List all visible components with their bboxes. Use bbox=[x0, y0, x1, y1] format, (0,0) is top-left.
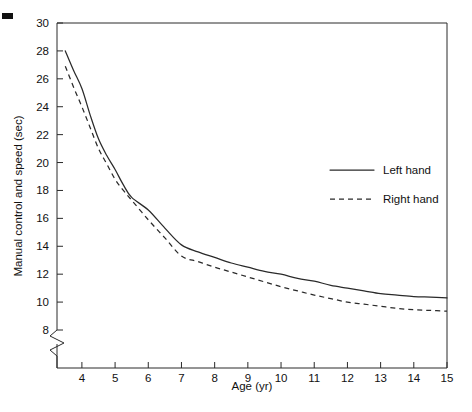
y-tick-label: 30 bbox=[36, 17, 49, 29]
y-tick-label: 26 bbox=[36, 73, 49, 85]
x-tick-label: 4 bbox=[79, 372, 86, 384]
y-tick-label: 12 bbox=[36, 268, 49, 280]
legend-label-right-hand: Right hand bbox=[383, 193, 439, 205]
line-chart: 81012141618202224262830 4567891011121314… bbox=[0, 0, 472, 412]
y-axis-ticks: 81012141618202224262830 bbox=[36, 17, 63, 336]
series-right-hand-line bbox=[65, 66, 447, 311]
x-tick-label: 15 bbox=[441, 372, 454, 384]
x-tick-label: 7 bbox=[178, 372, 184, 384]
y-tick-label: 18 bbox=[36, 184, 49, 196]
y-tick-label: 8 bbox=[43, 324, 49, 336]
data-series-group bbox=[65, 51, 447, 311]
y-axis-title: Manual control and speed (sec) bbox=[12, 115, 24, 276]
x-tick-label: 5 bbox=[112, 372, 118, 384]
x-tick-label: 14 bbox=[407, 372, 420, 384]
legend-label-left-hand: Left hand bbox=[383, 164, 431, 176]
y-tick-label: 16 bbox=[36, 212, 49, 224]
y-tick-label: 24 bbox=[36, 101, 49, 113]
x-tick-label: 12 bbox=[341, 372, 354, 384]
x-tick-label: 13 bbox=[374, 372, 387, 384]
figure-container: 81012141618202224262830 4567891011121314… bbox=[0, 0, 472, 412]
y-tick-label: 22 bbox=[36, 129, 49, 141]
x-tick-label: 10 bbox=[275, 372, 288, 384]
x-axis-title: Age (yr) bbox=[232, 380, 273, 392]
x-tick-label: 11 bbox=[308, 372, 320, 384]
x-tick-label: 8 bbox=[211, 372, 217, 384]
y-tick-label: 28 bbox=[36, 45, 49, 57]
y-tick-label: 10 bbox=[36, 296, 49, 308]
y-tick-label: 14 bbox=[36, 240, 49, 252]
y-tick-label: 20 bbox=[36, 157, 49, 169]
x-tick-label: 6 bbox=[145, 372, 151, 384]
legend: Left hand Right hand bbox=[330, 164, 439, 205]
